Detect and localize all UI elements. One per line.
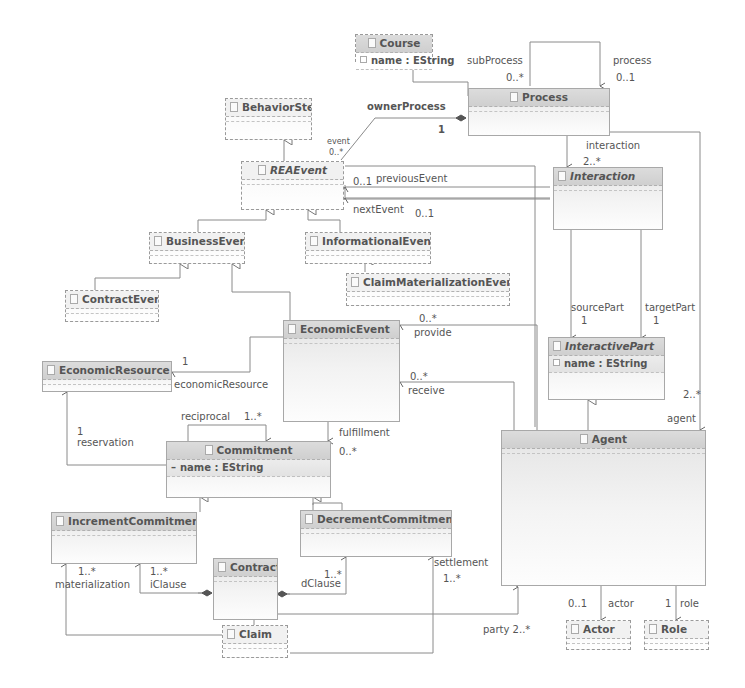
class-header: BusinessEvent <box>150 233 244 251</box>
class-interaction[interactable]: Interaction <box>553 167 663 230</box>
class-process[interactable]: Process <box>468 88 610 136</box>
class-icon <box>70 294 78 304</box>
class-icon <box>649 624 657 634</box>
label-reciprocal-mult: 1..* <box>244 411 262 422</box>
class-header: Claim <box>223 626 287 644</box>
class-header: DecrementCommitment <box>301 511 451 529</box>
class-icon <box>305 514 313 524</box>
edge-process-self <box>530 42 600 86</box>
label-receive-mult: 0..* <box>410 371 428 382</box>
class-header: Interaction <box>554 168 662 186</box>
class-icon <box>230 102 238 112</box>
label-subprocess-mult: 0..* <box>506 72 524 83</box>
divider <box>226 117 311 122</box>
divider <box>554 186 662 191</box>
label-provide: provide <box>414 327 452 338</box>
label-iclause-mult: 1..* <box>150 566 168 577</box>
edge-informationalevent-reaevent <box>308 210 340 232</box>
class-header: ContractEvent <box>66 291 158 309</box>
label-event: event <box>327 136 350 147</box>
label-reservation: reservation <box>77 437 134 448</box>
label-subprocess: subProcess <box>467 55 523 66</box>
attribute-row[interactable]: –name : EString <box>167 460 330 477</box>
divider <box>347 292 509 297</box>
class-informationalevent[interactable]: InformationalEvent <box>305 232 431 264</box>
label-interaction-mult: 2..* <box>583 156 601 167</box>
class-icon <box>218 562 226 572</box>
class-icon <box>351 277 359 287</box>
label-targetpart-mult: 1 <box>653 315 659 326</box>
attribute-icon <box>553 359 560 366</box>
class-businessevent[interactable]: BusinessEvent <box>149 232 245 264</box>
class-icon <box>47 365 55 375</box>
class-header: EconomicResource <box>43 362 171 380</box>
class-header: IncrementCommitment <box>52 513 196 531</box>
label-iclause: iClause <box>150 579 186 590</box>
class-actor[interactable]: Actor <box>566 620 631 650</box>
divider <box>567 639 630 644</box>
divider <box>223 644 287 649</box>
edge-economicresource <box>172 337 285 372</box>
label-reciprocal: reciprocal <box>181 411 230 422</box>
class-header: Course <box>356 35 432 53</box>
class-header: Agent <box>502 431 705 449</box>
divider <box>306 251 430 256</box>
label-settlement-mult: 1..* <box>443 573 461 584</box>
class-header: Actor <box>567 621 630 639</box>
class-commitment[interactable]: Commitment –name : EString <box>166 441 331 498</box>
class-icon <box>154 236 162 246</box>
label-ownerprocess-mult: 1 <box>438 124 445 135</box>
class-icon <box>310 236 318 246</box>
label-party: party 2..* <box>483 624 530 635</box>
class-course[interactable]: Course name : EString <box>355 34 433 62</box>
attribute-row[interactable]: name : EString <box>356 53 432 70</box>
label-actor: actor <box>608 598 634 609</box>
divider <box>645 639 708 644</box>
class-icon <box>288 324 296 334</box>
class-role[interactable]: Role <box>644 620 709 650</box>
edge-economicevent-businessevent <box>232 264 290 320</box>
label-materialization: materialization <box>55 579 130 590</box>
class-icon <box>580 434 588 444</box>
attribute-visibility-icon: – <box>171 462 176 473</box>
class-contractevent[interactable]: ContractEvent <box>65 290 159 322</box>
divider <box>66 309 158 314</box>
label-nextevent: nextEvent <box>353 204 404 215</box>
label-provide-mult: 0..* <box>419 313 437 324</box>
class-header: InformationalEvent <box>306 233 430 251</box>
label-settlement: settlement <box>434 557 488 568</box>
divider <box>502 449 705 454</box>
class-decrementcommitment[interactable]: DecrementCommitment <box>300 510 452 557</box>
class-icon <box>258 165 266 175</box>
divider <box>284 339 399 344</box>
class-icon <box>553 341 561 351</box>
class-header: Process <box>469 89 609 107</box>
divider <box>52 531 196 536</box>
label-economicresource-mult: 1 <box>182 356 188 367</box>
class-claimmaterializationevent[interactable]: ClaimMaterializationEvent <box>346 273 510 306</box>
label-nextevent-mult: 0..1 <box>415 208 434 219</box>
class-agent[interactable]: Agent <box>501 430 706 586</box>
label-role: role <box>680 598 699 609</box>
divider <box>43 380 171 385</box>
label-fulfillment: fulfillment <box>339 427 390 438</box>
label-economicresource: economicResource <box>174 379 268 390</box>
divider <box>242 180 343 185</box>
class-interactivepart[interactable]: InteractivePart name : EString <box>548 337 665 400</box>
class-economicevent[interactable]: EconomicEvent <box>283 320 400 422</box>
edge-ownerprocess <box>341 118 466 160</box>
class-header: Commitment <box>167 442 330 460</box>
class-icon <box>205 445 213 455</box>
class-claim[interactable]: Claim <box>222 625 288 658</box>
attribute-row[interactable]: name : EString <box>549 356 664 373</box>
class-reaevent[interactable]: REAEvent <box>241 161 344 210</box>
class-economicresource[interactable]: EconomicResource <box>42 361 172 392</box>
class-header: REAEvent <box>242 162 343 180</box>
class-icon <box>368 38 376 48</box>
class-contract[interactable]: Contract <box>213 558 278 620</box>
class-incrementcommitment[interactable]: IncrementCommitment <box>51 512 197 564</box>
class-behaviorstep[interactable]: BehaviorStep <box>225 98 312 140</box>
label-previousevent-mult: 0..1 <box>353 176 372 187</box>
divider <box>469 107 609 112</box>
label-targetpart: targetPart <box>645 302 695 313</box>
